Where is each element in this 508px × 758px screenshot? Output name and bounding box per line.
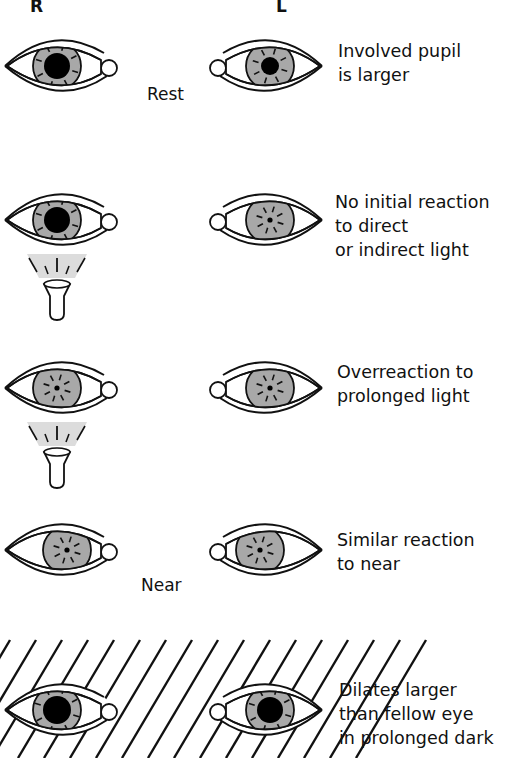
pupil [267, 217, 272, 222]
pupil [64, 547, 69, 552]
pupil [257, 547, 262, 552]
caruncle [101, 60, 117, 76]
light-source-prolonged-light [27, 422, 87, 488]
hatch-line [356, 640, 426, 758]
right-eye-rest [5, 40, 117, 91]
left-eye-rest [210, 40, 322, 91]
pupil [44, 207, 70, 233]
caruncle [210, 60, 226, 76]
caruncle [210, 704, 226, 720]
right-eye-prolonged-light [5, 362, 117, 413]
penlight-lens [44, 280, 70, 288]
hatch-line [96, 640, 166, 758]
left-eye-prolonged-light [210, 362, 322, 413]
pupil [261, 57, 279, 75]
caruncle [210, 382, 226, 398]
hatch-line [122, 640, 192, 758]
hatch-line [304, 640, 374, 758]
hatch-line [330, 640, 400, 758]
right-eye-near [5, 524, 117, 575]
left-eye-prolonged-dark [210, 684, 322, 735]
caruncle [101, 214, 117, 230]
eyes-layer [5, 40, 322, 735]
pupil [43, 696, 71, 724]
light-source-initial-light [27, 254, 87, 320]
pupil [44, 53, 70, 79]
hatch-line [148, 640, 218, 758]
penlight-lens [44, 448, 70, 456]
caruncle [101, 704, 117, 720]
caruncle [210, 544, 226, 560]
pupil-diagram [0, 0, 508, 758]
caruncle [101, 544, 117, 560]
pupil [257, 697, 283, 723]
pupil [54, 385, 59, 390]
pupil [267, 385, 272, 390]
caruncle [101, 382, 117, 398]
right-eye-initial-light [5, 194, 117, 245]
right-eye-prolonged-dark [5, 684, 117, 735]
left-eye-near [210, 524, 322, 575]
caruncle [210, 214, 226, 230]
left-eye-initial-light [210, 194, 322, 245]
